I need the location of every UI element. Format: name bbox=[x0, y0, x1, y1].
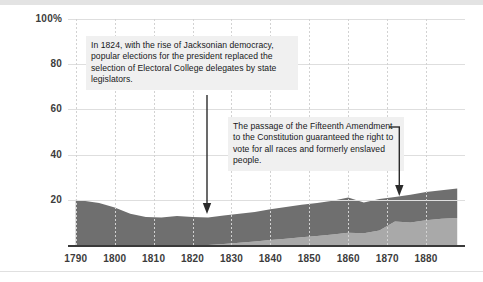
h-gridline-20 bbox=[68, 200, 465, 201]
bottom-divider bbox=[0, 271, 483, 272]
y-tick-40: 40 bbox=[0, 149, 62, 160]
x-axis-line bbox=[68, 245, 465, 247]
x-axis-tick-labels: 1790180018101820183018401850186018701880 bbox=[68, 253, 465, 269]
h-gridline-60 bbox=[68, 109, 465, 110]
annotation-1824: In 1824, with the rise of Jacksonian dem… bbox=[86, 36, 298, 90]
v-gridline-1880 bbox=[426, 19, 427, 245]
annotation-fifteenth-amendment: The passage of the Fifteenth Amendment t… bbox=[228, 117, 404, 171]
area-chart: 100%80604020 179018001810182018301840185… bbox=[0, 5, 483, 271]
annotation-fifteenth-amendment-arrow bbox=[388, 121, 414, 197]
v-gridline-1790 bbox=[76, 19, 77, 245]
y-tick-20: 20 bbox=[0, 194, 62, 205]
annotation-1824-arrow bbox=[196, 95, 218, 215]
y-tick-60: 60 bbox=[0, 103, 62, 114]
y-tick-100: 100% bbox=[0, 13, 62, 24]
h-gridline-100 bbox=[68, 19, 465, 20]
y-tick-80: 80 bbox=[0, 58, 62, 69]
x-tick-1880: 1880 bbox=[403, 253, 449, 264]
y-axis-tick-labels: 100%80604020 bbox=[0, 19, 62, 245]
